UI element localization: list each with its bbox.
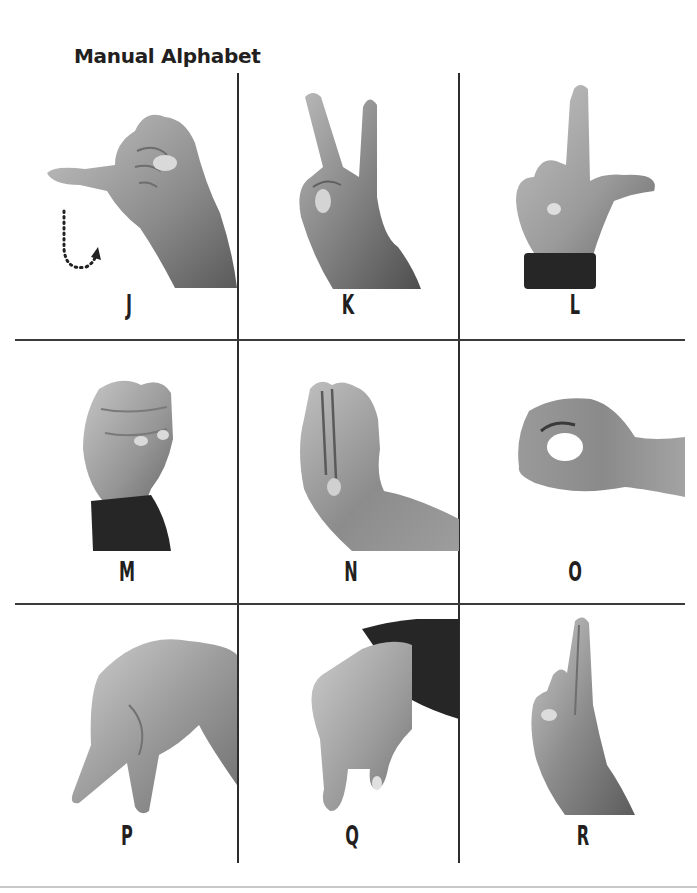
sign-cell-r: R [459,605,685,863]
letter-label-p: P [115,823,140,849]
hand-sign-q-image [302,619,459,813]
hand-sign-m-image [81,379,177,551]
motion-arrow-icon [50,205,110,275]
sign-cell-o: O [459,341,685,603]
letter-label-r: R [571,823,596,849]
sign-cell-n: N [238,341,459,603]
sign-cell-j: J [15,73,237,339]
letter-label-o: O [563,559,588,585]
hand-sign-o-image [515,397,685,502]
sign-cell-k: K [238,73,459,339]
hand-sign-k-image [293,87,423,289]
letter-label-n: N [339,559,364,585]
hand-sign-p-image [69,635,237,815]
hand-sign-r-image [527,615,637,815]
page-title: Manual Alphabet [74,44,261,68]
letter-label-m: M [115,559,140,585]
page-bottom-rule [0,886,697,888]
sign-cell-m: M [15,341,237,603]
sign-cell-l: L [459,73,685,339]
hand-sign-l-image [514,81,659,289]
letter-label-k: K [336,292,361,318]
hand-sign-n-image [296,379,459,551]
sign-cell-p: P [15,605,237,863]
letter-label-j: J [117,292,142,318]
letter-label-l: L [563,292,588,318]
letter-label-q: Q [340,823,365,849]
sign-cell-q: Q [238,605,459,863]
